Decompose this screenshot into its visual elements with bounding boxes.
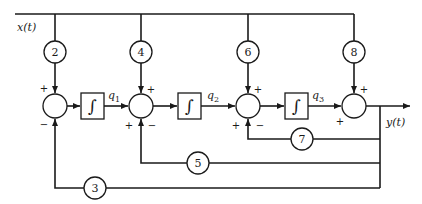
state-label-q2: q2 bbox=[207, 89, 219, 104]
gain-node-4: 4 bbox=[130, 41, 152, 63]
integral-icon: ∫ bbox=[185, 96, 194, 116]
svg-text:+: + bbox=[232, 120, 240, 131]
gain-node-8: 8 bbox=[343, 41, 365, 63]
gain-value: 3 bbox=[92, 182, 99, 195]
gain-value: 8 bbox=[351, 46, 358, 59]
gain-value: 7 bbox=[299, 133, 306, 146]
gain-value: 6 bbox=[245, 46, 252, 59]
integrator-2: ∫ bbox=[178, 93, 201, 119]
svg-text:−: − bbox=[40, 119, 48, 130]
gain-value: 2 bbox=[52, 46, 59, 59]
svg-text:+: + bbox=[147, 84, 155, 95]
state-label-q1: q1 bbox=[108, 89, 120, 104]
integral-icon: ∫ bbox=[88, 96, 97, 116]
block-diagram: x(t) 2 4 6 8 + − bbox=[0, 0, 422, 204]
gain-value: 5 bbox=[195, 157, 202, 170]
svg-text:+: + bbox=[40, 83, 48, 94]
output-label: y(t) bbox=[385, 116, 405, 129]
svg-text:−: − bbox=[256, 120, 264, 131]
svg-text:+: + bbox=[360, 84, 368, 95]
integrator-3: ∫ bbox=[285, 93, 308, 119]
svg-text:+: + bbox=[336, 116, 344, 127]
gain-node-5: 5 bbox=[187, 152, 209, 174]
gain-node-2: 2 bbox=[44, 41, 66, 63]
gain-node-7: 7 bbox=[291, 128, 313, 150]
feedforward-branches bbox=[55, 14, 354, 93]
svg-text:−: − bbox=[148, 120, 156, 131]
summing-junction-1: + − bbox=[40, 83, 67, 130]
integrator-1: ∫ bbox=[81, 93, 104, 119]
summing-junction-4: + + bbox=[336, 84, 368, 127]
integral-icon: ∫ bbox=[292, 96, 301, 116]
gain-value: 4 bbox=[138, 46, 145, 59]
state-label-q3: q3 bbox=[312, 89, 324, 104]
gain-node-6: 6 bbox=[237, 41, 259, 63]
input-label: x(t) bbox=[17, 21, 36, 34]
svg-text:+: + bbox=[125, 120, 133, 131]
svg-text:+: + bbox=[254, 84, 262, 95]
gain-node-3: 3 bbox=[84, 177, 106, 199]
